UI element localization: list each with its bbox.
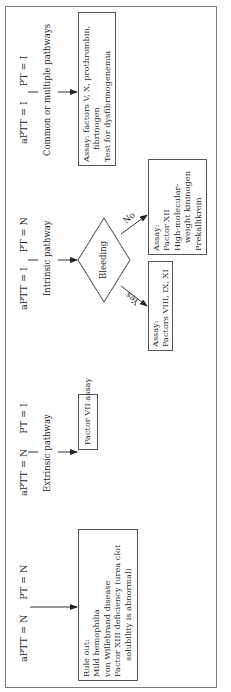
pt-value: PT = N: [18, 565, 29, 600]
box-line: Assay:: [151, 163, 161, 251]
box-line: Prekallikrein: [193, 163, 203, 251]
yes-assay-box: Assay: Factors VIII, IX, XI: [148, 261, 173, 351]
decision-label: Bleeding: [98, 241, 108, 279]
factor-vii-box: Factor VII assay: [78, 394, 98, 450]
aptt-value: aPTT = I: [18, 101, 29, 144]
aptt-value: aPTT = N: [18, 449, 29, 496]
common-assay-box: Assay: factors V, X, prothrombin, fibrin…: [78, 12, 116, 166]
box-line: Test for dysfibrinogenemia: [102, 16, 112, 162]
box-line: Factors VIII, IX, XI: [160, 265, 170, 347]
box-line: Factor XIII deficiency (urea clot: [112, 533, 122, 677]
pt-value: PT = I: [18, 56, 29, 86]
header-col-d: aPTT = I PT = I: [18, 56, 29, 144]
box-line: Rule out:: [81, 533, 91, 677]
box-line: Factor XII: [161, 163, 171, 251]
box-line: Assay:: [150, 265, 160, 347]
rule-out-box: Rule out: Mild hemophilia von Willebrand…: [78, 529, 138, 681]
pathway-label-intrinsic: Intrinsic pathway: [42, 220, 52, 296]
box-line: solubility is abnormal): [123, 533, 133, 677]
pt-value: PT = I: [18, 403, 29, 433]
box-line: Assay: factors V, X, prothrombin,: [81, 16, 91, 162]
aptt-value: aPTT = N: [18, 615, 29, 662]
aptt-value: aPTT = I: [18, 267, 29, 310]
pt-value: PT = N: [18, 217, 29, 252]
flowchart-canvas: aPTT = N PT = N Rule out: Mild hemophili…: [0, 0, 231, 692]
box-line: Mild hemophilia: [91, 533, 101, 677]
pathway-label-extrinsic: Extrinsic pathway: [42, 414, 52, 492]
box-line: High-molecular-: [172, 163, 182, 251]
header-col-a: aPTT = N PT = N: [18, 565, 29, 662]
header-col-c: aPTT = I PT = N: [18, 217, 29, 310]
box-line: fibrinogen: [91, 16, 101, 162]
pathway-label-common: Common or multiple pathways: [42, 24, 52, 156]
no-assay-box: Assay: Factor XII High-molecular- weight…: [148, 159, 207, 255]
box-line: weight kininogen: [182, 163, 192, 251]
header-col-b: aPTT = N PT = I: [18, 403, 29, 496]
box-line: von Willebrand disease: [102, 533, 112, 677]
box-line: Factor VII assay: [82, 399, 92, 445]
